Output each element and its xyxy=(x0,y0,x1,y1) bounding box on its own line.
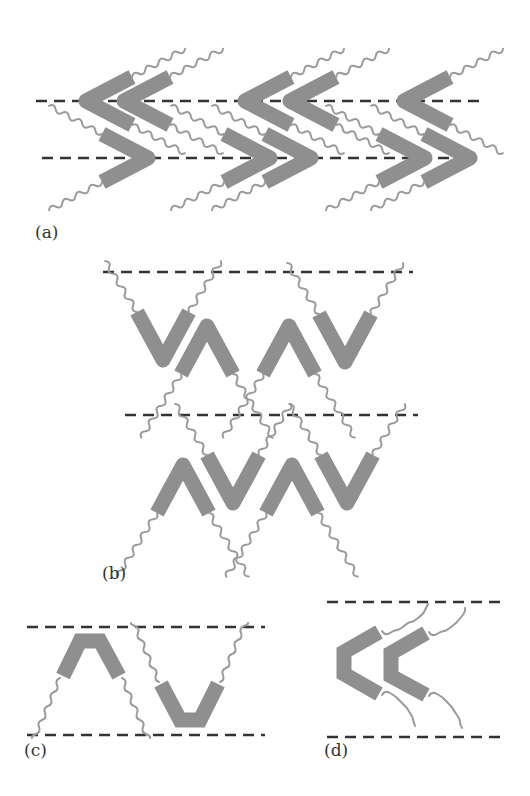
panel-d xyxy=(327,602,505,737)
molecule-v xyxy=(161,684,218,720)
bent-core-molecule-diagram xyxy=(0,0,530,796)
molecule-lambda xyxy=(115,465,251,578)
tail xyxy=(220,623,248,682)
tail xyxy=(131,623,159,682)
molecule-chevron-left xyxy=(391,633,426,695)
tail xyxy=(382,692,415,726)
panel-label-b: (b) xyxy=(102,565,126,582)
tail xyxy=(429,608,465,635)
molecule-lambda xyxy=(63,641,119,676)
panel-label-a: (a) xyxy=(35,224,58,241)
molecule-chevron-left xyxy=(344,632,379,694)
panel-label-c: (c) xyxy=(24,742,47,759)
panel-c xyxy=(27,623,265,738)
panel-label-d: (d) xyxy=(324,742,348,759)
tail xyxy=(122,678,150,738)
panel-b xyxy=(103,260,418,578)
tail xyxy=(32,678,60,738)
panel-a xyxy=(36,47,504,213)
molecule-chevron-left xyxy=(290,47,390,156)
tail xyxy=(429,693,462,728)
molecule-chevron-right xyxy=(170,104,270,213)
molecule-chevron-left xyxy=(124,47,224,156)
